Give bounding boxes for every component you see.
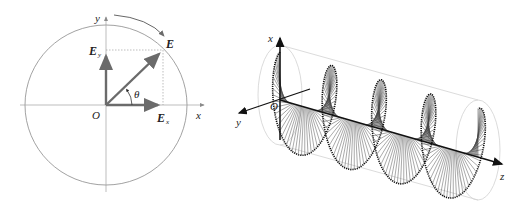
polarization-figure: y x O E θ E y E x x y z O (0, 0, 525, 202)
e-vector-arrow (106, 54, 159, 105)
theta-arc-icon (127, 90, 132, 105)
rotation-direction-arrow (114, 15, 164, 36)
y-axis-3d-label: y (235, 116, 241, 128)
helix-field-vectors (273, 52, 486, 198)
ex-label-main: E (156, 111, 165, 125)
theta-label: θ (134, 88, 140, 100)
e-vector-label: E (165, 37, 174, 51)
ex-label-subscript: x (165, 118, 170, 126)
y-axis-label: y (94, 12, 100, 24)
z-axis-3d-label: z (499, 170, 505, 182)
origin-3d-label: O (270, 100, 278, 112)
left-phasor-diagram: y x O E θ E y E x (20, 12, 204, 192)
x-axis-3d-label: x (267, 32, 273, 44)
x-axis-label: x (195, 109, 201, 121)
ey-label-main: E (88, 44, 97, 58)
ey-label-subscript: y (97, 51, 102, 59)
ey-label: E y (88, 44, 102, 59)
ex-label: E x (156, 111, 170, 126)
origin-label: O (92, 109, 100, 121)
right-3d-wave-diagram: x y z O (235, 32, 505, 200)
